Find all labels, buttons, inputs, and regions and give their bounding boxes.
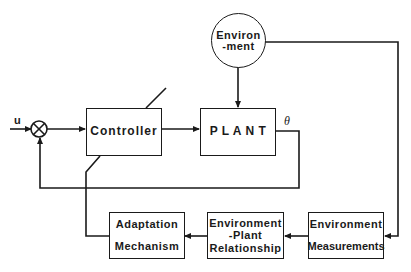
adaptation-mechanism-block: Adaptation Mechanism xyxy=(109,212,185,259)
adaptation-label-line2: Mechanism xyxy=(115,240,179,253)
controller-label: Controller xyxy=(90,125,157,139)
plant-label: P L A N T xyxy=(210,125,267,139)
epr-label-line1: Environment xyxy=(209,217,282,230)
adaptation-label-line1: Adaptation xyxy=(116,218,178,231)
plant-block: P L A N T xyxy=(200,108,276,156)
environment-label-line1: Environ xyxy=(216,30,260,41)
environment-node: Environ -ment xyxy=(211,13,266,68)
input-label-u: u xyxy=(14,114,21,126)
environment-measurements-block: Environment Measurements xyxy=(308,212,384,259)
epr-label-line3: Relationship xyxy=(209,242,281,255)
em-label-line1: Environment xyxy=(310,218,383,231)
controller-block: Controller xyxy=(86,108,162,156)
output-label-theta: θ xyxy=(284,114,290,129)
environment-plant-relationship-block: Environment -Plant Relationship xyxy=(207,212,284,259)
epr-label-line2: -Plant xyxy=(229,229,263,242)
em-label-line2: Measurements xyxy=(307,240,384,253)
environment-label-line2: -ment xyxy=(222,41,254,52)
